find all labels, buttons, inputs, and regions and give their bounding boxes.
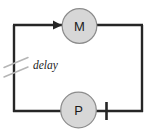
delay-label: delay bbox=[33, 59, 59, 72]
break-slash-upper-icon bbox=[4, 58, 28, 68]
pump-node[interactable]: P bbox=[61, 92, 97, 128]
motor-node[interactable]: M bbox=[62, 9, 97, 44]
delay-break-marks bbox=[4, 58, 28, 78]
circuit-diagram-canvas: delay M P bbox=[0, 0, 148, 137]
flow-arrow-icon bbox=[53, 21, 62, 30]
pump-node-label: P bbox=[74, 103, 83, 118]
motor-node-label: M bbox=[74, 19, 85, 34]
break-slash-lower-icon bbox=[4, 67, 28, 77]
circuit-diagram-figure: delay M P bbox=[0, 0, 148, 137]
